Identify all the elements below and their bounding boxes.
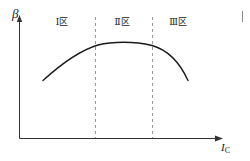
x-axis-label: IC xyxy=(221,141,230,155)
beta-curve xyxy=(43,42,188,80)
edge-artifact-mark xyxy=(242,11,243,22)
beta-vs-ic-figure: Ⅰ区 Ⅱ区 Ⅲ区 β IC xyxy=(0,0,250,161)
x-axis-label-subscript: C xyxy=(225,146,230,155)
region-label-3: Ⅲ区 xyxy=(169,17,187,27)
x-axis xyxy=(20,136,224,142)
region-label-2: Ⅱ区 xyxy=(114,17,129,27)
y-axis xyxy=(17,15,22,139)
y-axis-label: β xyxy=(12,6,18,22)
region-label-1: Ⅰ区 xyxy=(56,17,69,27)
